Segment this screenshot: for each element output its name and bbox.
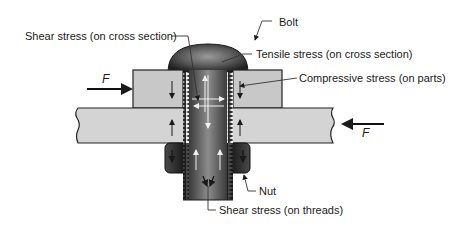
thread-nut-right [227,143,233,200]
label-tensile-cross-section: Tensile stress (on cross section) [256,48,413,60]
label-compressive-parts: Compressive stress (on parts) [299,72,446,84]
label-shear-threads: Shear stress (on threads) [219,204,343,216]
upper-plate-left [133,70,183,108]
label-bolt: Bolt [279,16,298,28]
thread-right [227,72,233,143]
thread-nut-left [183,143,189,200]
bolt-head [168,44,248,72]
label-shear-cross-section: Shear stress (on cross section) [25,30,177,42]
thread-left [183,72,189,143]
label-force-right: F [362,127,369,139]
label-force-left: F [102,73,109,85]
label-nut: Nut [259,185,276,197]
